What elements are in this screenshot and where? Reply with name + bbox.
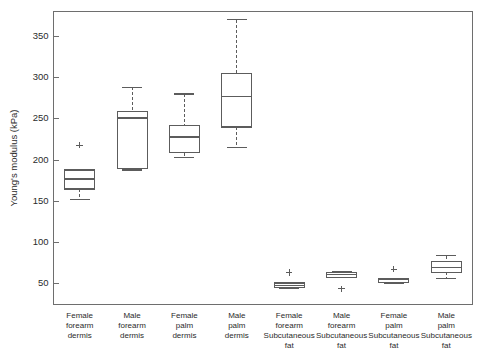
y-tick-label: 200 <box>33 154 49 165</box>
x-category-label-line: Subcutaneous <box>316 331 367 340</box>
box-iqr <box>169 125 199 152</box>
x-category-label-line: palm <box>385 321 403 330</box>
x-category-label-line: Female <box>381 311 408 320</box>
y-tick-label: 350 <box>33 30 49 41</box>
x-category-label-line: dermis <box>68 331 92 340</box>
x-category-label-line: palm <box>228 321 246 330</box>
x-category-label-line: Male <box>228 311 246 320</box>
x-category-label-line: dermis <box>172 331 196 340</box>
x-category-label-line: Subcutaneous <box>421 331 472 340</box>
y-axis-title: Young's modulus (kPa) <box>8 109 19 206</box>
x-category-label: Malepalmdermis <box>225 311 249 340</box>
box-iqr <box>222 73 252 127</box>
y-tick-label: 250 <box>33 112 49 123</box>
x-category-label-line: fat <box>442 341 452 350</box>
x-category-label-line: forearm <box>275 321 303 330</box>
x-category-label-line: palm <box>176 321 194 330</box>
x-category-label-line: dermis <box>225 331 249 340</box>
box-plot-chart: Young's modulus (kPa) 501001502002503003… <box>0 0 488 354</box>
figure-container: Young's modulus (kPa) 501001502002503003… <box>0 0 488 354</box>
x-category-label-line: Male <box>123 311 141 320</box>
x-category-label-line: fat <box>337 341 347 350</box>
x-category-label-line: fat <box>389 341 399 350</box>
y-tick-label: 300 <box>33 71 49 82</box>
x-category-label-line: palm <box>438 321 456 330</box>
x-category-label-line: forearm <box>328 321 356 330</box>
x-category-label-line: Male <box>438 311 456 320</box>
x-category-label-line: dermis <box>120 331 144 340</box>
x-category-label: Femaleforearmdermis <box>66 311 94 340</box>
x-category-label-line: Subcutaneous <box>264 331 315 340</box>
x-category-label-line: Female <box>171 311 198 320</box>
x-category-label-line: fat <box>285 341 295 350</box>
x-category-label-line: forearm <box>66 321 94 330</box>
x-category-label-line: Male <box>333 311 351 320</box>
x-category-label-line: Subcutaneous <box>368 331 419 340</box>
box-iqr <box>117 111 147 168</box>
y-tick-label: 100 <box>33 236 49 247</box>
x-category-label-line: Female <box>276 311 303 320</box>
y-tick-label: 150 <box>33 195 49 206</box>
x-category-label-line: forearm <box>118 321 146 330</box>
y-tick-label: 50 <box>38 277 49 288</box>
x-category-label-line: Female <box>66 311 93 320</box>
